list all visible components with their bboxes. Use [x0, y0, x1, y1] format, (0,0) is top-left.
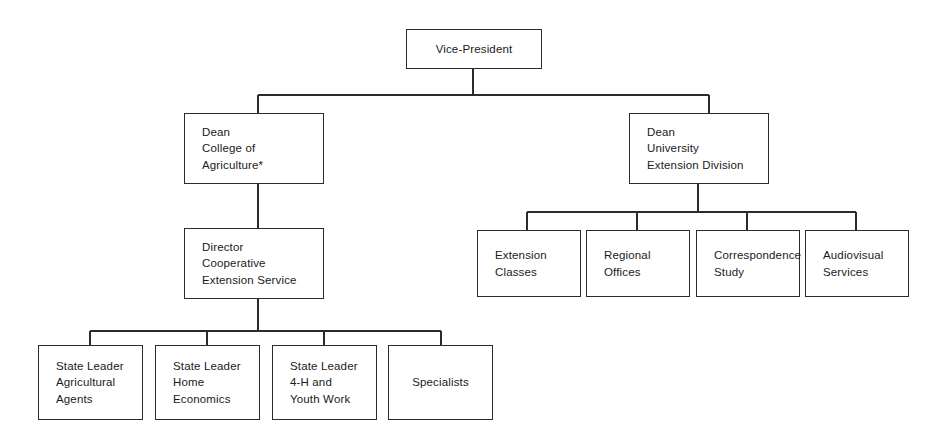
node-regional-offices[interactable]: Regional Offices	[586, 230, 690, 297]
node-audiovisual-services[interactable]: Audiovisual Services	[805, 230, 909, 297]
node-vice-president[interactable]: Vice-President	[406, 29, 542, 69]
node-vice-president-label: Vice-President	[436, 41, 513, 57]
node-correspondence-study-label: Correspondence Study	[697, 247, 801, 280]
node-state-leader-agricultural-agents-label: State Leader Agricultural Agents	[39, 358, 124, 407]
node-state-leader-4h-and-youth-work[interactable]: State Leader 4-H and Youth Work	[272, 345, 377, 420]
node-state-leader-agricultural-agents[interactable]: State Leader Agricultural Agents	[38, 345, 143, 420]
node-state-leader-home-economics[interactable]: State Leader Home Economics	[155, 345, 260, 420]
node-specialists[interactable]: Specialists	[388, 345, 493, 420]
node-director-cooperative-extension-service-label: Director Cooperative Extension Service	[185, 239, 297, 288]
node-specialists-label: Specialists	[412, 374, 469, 390]
org-chart-canvas: Vice-President Dean College of Agricultu…	[0, 0, 939, 442]
node-director-cooperative-extension-service[interactable]: Director Cooperative Extension Service	[184, 228, 324, 299]
node-regional-offices-label: Regional Offices	[587, 247, 651, 280]
node-dean-university-extension-division-label: Dean University Extension Division	[630, 124, 744, 173]
node-extension-classes-label: Extension Classes	[478, 247, 547, 280]
node-dean-college-of-agriculture[interactable]: Dean College of Agriculture*	[184, 113, 324, 184]
node-correspondence-study[interactable]: Correspondence Study	[696, 230, 800, 297]
node-extension-classes[interactable]: Extension Classes	[477, 230, 581, 297]
node-state-leader-home-economics-label: State Leader Home Economics	[156, 358, 241, 407]
node-audiovisual-services-label: Audiovisual Services	[806, 247, 883, 280]
node-dean-university-extension-division[interactable]: Dean University Extension Division	[629, 113, 769, 184]
node-dean-college-of-agriculture-label: Dean College of Agriculture*	[185, 124, 263, 173]
node-state-leader-4h-and-youth-work-label: State Leader 4-H and Youth Work	[273, 358, 358, 407]
